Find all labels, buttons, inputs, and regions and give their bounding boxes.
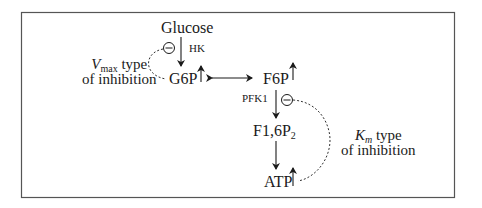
vmax-annotation: Vmax type of inhibition [82,57,157,87]
diagram-frame [22,13,455,198]
enzyme-pfk1: PFK1 [242,93,268,104]
node-glucose: Glucose [161,20,213,36]
diagram-canvas [0,0,482,208]
enzyme-hk: HK [189,43,205,54]
node-g6p: G6P [169,71,197,87]
node-atp: ATP [264,174,292,190]
km-feedback-loop [293,100,330,181]
node-f6p: F6P [263,71,289,87]
km-annotation: Km type of inhibition [341,128,416,158]
node-f16p2: F1,6P2 [253,123,296,139]
